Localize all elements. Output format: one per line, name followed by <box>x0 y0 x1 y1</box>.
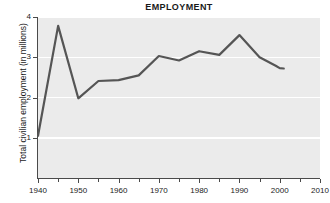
series-layer <box>0 0 330 203</box>
employment-line-chart: EMPLOYMENT Total civilian employment (in… <box>0 0 330 203</box>
series-line-total-civilian-employment <box>38 26 284 136</box>
